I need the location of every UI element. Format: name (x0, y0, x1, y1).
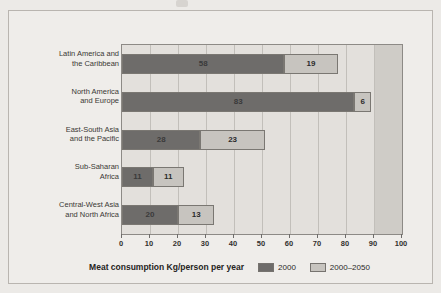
category-label: Latin America and the Caribbean (19, 49, 119, 68)
x-tick-label: 20 (173, 239, 181, 248)
bar-row: 58 19 (122, 45, 402, 83)
category-label-line2: the Caribbean (19, 59, 119, 69)
legend-label: 2000–2050 (330, 263, 370, 272)
x-axis-title: Meat consumption Kg/person per year (89, 262, 244, 272)
bar-segment-2000[interactable]: 83 (122, 92, 354, 112)
legend-item-2000-2050[interactable]: 2000–2050 (310, 263, 370, 272)
category-label-line2: Africa (19, 172, 119, 182)
category-label: Sub-Saharan Africa (19, 162, 119, 181)
bar-value-label: 13 (192, 211, 201, 219)
x-tick (149, 234, 150, 238)
bar-segment-2000[interactable]: 58 (122, 54, 284, 74)
scan-artifact (176, 0, 188, 7)
x-tick-label: 80 (341, 239, 349, 248)
category-label-line2: and Europe (19, 96, 119, 106)
x-tick-label: 70 (313, 239, 321, 248)
x-tick-label: 100 (395, 239, 408, 248)
legend-swatch-icon (258, 263, 274, 272)
bar-row: 83 6 (122, 83, 402, 121)
x-tick (205, 234, 206, 238)
bar-value-label: 6 (361, 98, 365, 106)
x-tick-label: 60 (285, 239, 293, 248)
x-tick (401, 234, 402, 238)
bar-value-label: 58 (199, 60, 208, 68)
bar-value-label: 11 (133, 173, 141, 181)
bar-segment-2000-2050[interactable]: 19 (284, 54, 337, 74)
x-tick (177, 234, 178, 238)
legend-label: 2000 (278, 263, 296, 272)
category-label: North America and Europe (19, 87, 119, 106)
bar-segment-2000[interactable]: 11 (122, 167, 153, 187)
legend: Meat consumption Kg/person per year 2000… (17, 259, 441, 275)
category-label-line1: North America (19, 87, 119, 97)
legend-swatch-icon (310, 263, 326, 272)
x-tick-label: 90 (369, 239, 377, 248)
x-tick (373, 234, 374, 238)
x-tick-label: 0 (119, 239, 123, 248)
category-label-line1: Latin America and (19, 49, 119, 59)
x-tick (317, 234, 318, 238)
x-tick-label: 50 (257, 239, 265, 248)
bar-value-label: 23 (228, 136, 237, 144)
legend-item-2000[interactable]: 2000 (258, 263, 296, 272)
x-tick-label: 40 (229, 239, 237, 248)
category-label-line2: and North Africa (19, 210, 119, 220)
category-label-line1: East-South Asia (19, 125, 119, 135)
x-tick (233, 234, 234, 238)
x-tick (289, 234, 290, 238)
x-axis: 0 10 20 30 40 50 60 70 80 90 100 (121, 234, 402, 252)
category-label-line2: and the Pacific (19, 134, 119, 144)
bar-value-label: 11 (164, 173, 172, 181)
x-tick (261, 234, 262, 238)
bar-value-label: 19 (307, 60, 316, 68)
bar-segment-2000-2050[interactable]: 23 (200, 130, 264, 150)
x-tick-label: 10 (145, 239, 153, 248)
category-label-line1: Sub-Saharan (19, 162, 119, 172)
x-tick-label: 30 (201, 239, 209, 248)
category-label: East-South Asia and the Pacific (19, 125, 119, 144)
bar-row: 28 23 (122, 121, 402, 159)
chart-frame: Latin America and the Caribbean North Am… (8, 10, 433, 284)
category-axis-labels: Latin America and the Caribbean North Am… (15, 44, 119, 233)
bar-value-label: 83 (234, 98, 243, 106)
bar-segment-2000-2050[interactable]: 13 (178, 205, 214, 225)
category-label-line1: Central-West Asia (19, 200, 119, 210)
bar-segment-2000[interactable]: 28 (122, 130, 200, 150)
bar-value-label: 28 (157, 136, 166, 144)
bar-segment-2000-2050[interactable]: 6 (354, 92, 371, 112)
category-label: Central-West Asia and North Africa (19, 200, 119, 219)
bar-row: 11 11 (122, 158, 402, 196)
plot-area: 58 19 83 6 28 23 (121, 44, 403, 235)
bar-segment-2000-2050[interactable]: 11 (153, 167, 184, 187)
bar-value-label: 20 (146, 211, 155, 219)
x-tick (121, 234, 122, 238)
x-tick (345, 234, 346, 238)
chart-figure: Latin America and the Caribbean North Am… (0, 0, 441, 293)
bar-row: 20 13 (122, 196, 402, 234)
bar-segment-2000[interactable]: 20 (122, 205, 178, 225)
